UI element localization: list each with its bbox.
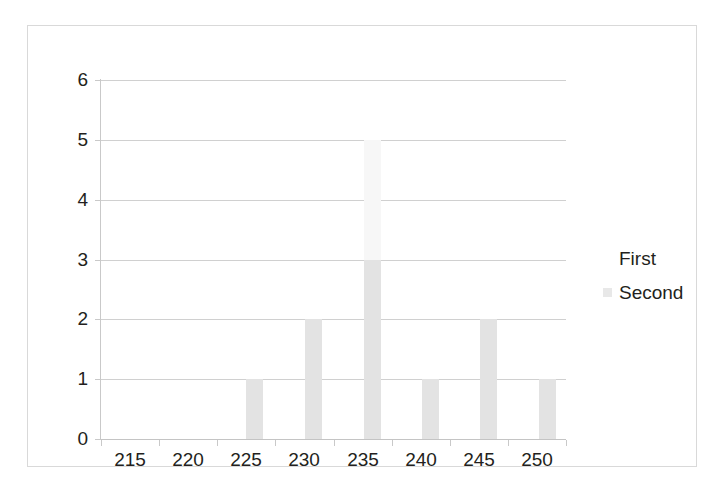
category-tick-label-250: 250 [508,450,566,470]
category-tick-label-215: 215 [101,450,159,470]
gridline-4 [101,200,566,201]
value-tick-4 [95,200,101,201]
category-tick-2 [217,440,218,446]
category-tick-label-245: 245 [450,450,508,470]
bar-second-241[interactable] [422,379,439,439]
category-tick-label-235: 235 [334,450,392,470]
legend-label-first: First [619,249,656,268]
legend-label-second: Second [619,283,683,302]
bar-second-251[interactable] [539,379,556,439]
category-tick-1 [159,440,160,446]
plot-area [101,80,566,439]
value-tick-5 [95,140,101,141]
category-tick-6 [450,440,451,446]
value-tick-label-0: 0 [58,429,88,448]
value-tick-6 [95,80,101,81]
value-tick-label-5: 5 [58,130,88,149]
value-tick-3 [95,260,101,261]
gridline-5 [101,140,566,141]
chart-legend: First Second [603,241,713,309]
category-tick-label-225: 225 [217,450,275,470]
category-tick-label-220: 220 [159,450,217,470]
value-tick-2 [95,319,101,320]
category-tick-4 [334,440,335,446]
value-tick-label-1: 1 [58,369,88,388]
chart-frame: 0123456 215220225230235240245250 First S… [27,25,697,467]
category-tick-8 [566,440,567,446]
bar-second-246[interactable] [480,319,497,439]
value-axis-labels: 0123456 [36,26,88,492]
value-tick-label-3: 3 [58,250,88,269]
legend-swatch-first-icon [603,254,612,263]
value-tick-label-2: 2 [58,309,88,328]
bar-second-226[interactable] [246,379,263,439]
category-tick-7 [508,440,509,446]
value-tick-label-4: 4 [58,190,88,209]
legend-item-second[interactable]: Second [603,275,713,309]
gridline-3 [101,260,566,261]
category-tick-label-230: 230 [275,450,333,470]
bar-second-236[interactable] [364,260,381,440]
category-tick-3 [275,440,276,446]
value-tick-label-6: 6 [58,70,88,89]
category-tick-0 [101,440,102,446]
category-tick-5 [392,440,393,446]
category-tick-label-240: 240 [392,450,450,470]
bar-second-231[interactable] [305,319,322,439]
value-tick-1 [95,379,101,380]
legend-swatch-second-icon [603,288,612,297]
legend-item-first[interactable]: First [603,241,713,275]
gridline-6 [101,80,566,81]
